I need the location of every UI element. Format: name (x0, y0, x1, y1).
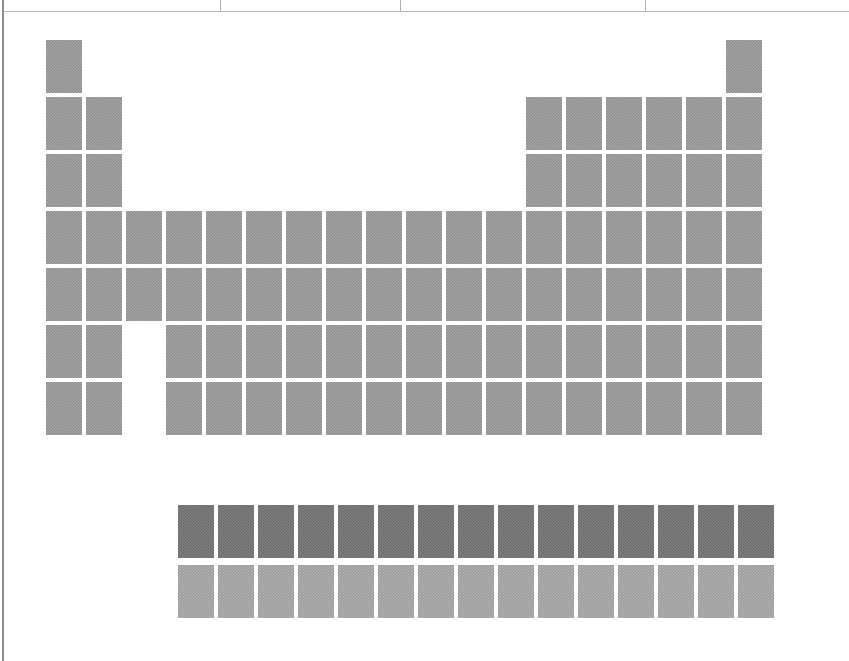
element-cell-period-4-group-7[interactable] (286, 211, 322, 264)
element-cell-period-4-group-8[interactable] (326, 211, 362, 264)
element-cell-actinides-group-10[interactable] (418, 565, 454, 618)
element-cell-period-4-group-12[interactable] (486, 211, 522, 264)
element-cell-period-6-group-7[interactable] (286, 325, 322, 378)
element-cell-period-1-group-18[interactable] (726, 40, 762, 93)
element-cell-period-2-group-17[interactable] (686, 97, 722, 150)
element-cell-period-2-group-1[interactable] (46, 97, 82, 150)
element-cell-period-7-group-8[interactable] (326, 382, 362, 435)
element-cell-actinides-group-5[interactable] (218, 565, 254, 618)
element-cell-period-5-group-7[interactable] (286, 268, 322, 321)
element-cell-period-4-group-5[interactable] (206, 211, 242, 264)
element-cell-period-6-group-9[interactable] (366, 325, 402, 378)
element-cell-period-2-group-14[interactable] (566, 97, 602, 150)
element-cell-period-3-group-17[interactable] (686, 154, 722, 207)
element-cell-period-6-group-10[interactable] (406, 325, 442, 378)
element-cell-period-5-group-12[interactable] (486, 268, 522, 321)
element-cell-period-4-group-13[interactable] (526, 211, 562, 264)
element-cell-period-6-group-16[interactable] (646, 325, 682, 378)
element-cell-period-5-group-11[interactable] (446, 268, 482, 321)
element-cell-period-6-group-12[interactable] (486, 325, 522, 378)
element-cell-period-7-group-7[interactable] (286, 382, 322, 435)
element-cell-actinides-group-7[interactable] (298, 565, 334, 618)
element-cell-period-6-group-14[interactable] (566, 325, 602, 378)
element-cell-period-2-group-15[interactable] (606, 97, 642, 150)
element-cell-lanthanides-group-10[interactable] (418, 505, 454, 558)
element-cell-period-5-group-9[interactable] (366, 268, 402, 321)
element-cell-lanthanides-group-5[interactable] (218, 505, 254, 558)
element-cell-period-3-group-14[interactable] (566, 154, 602, 207)
element-cell-lanthanides-group-16[interactable] (658, 505, 694, 558)
element-cell-period-7-group-5[interactable] (206, 382, 242, 435)
element-cell-period-4-group-4[interactable] (166, 211, 202, 264)
element-cell-lanthanides-group-8[interactable] (338, 505, 374, 558)
element-cell-period-7-group-12[interactable] (486, 382, 522, 435)
element-cell-actinides-group-15[interactable] (618, 565, 654, 618)
element-cell-period-7-group-6[interactable] (246, 382, 282, 435)
element-cell-period-5-group-4[interactable] (166, 268, 202, 321)
element-cell-actinides-group-17[interactable] (698, 565, 734, 618)
element-cell-period-7-group-1[interactable] (46, 382, 82, 435)
element-cell-lanthanides-group-13[interactable] (538, 505, 574, 558)
element-cell-period-4-group-17[interactable] (686, 211, 722, 264)
element-cell-actinides-group-16[interactable] (658, 565, 694, 618)
element-cell-actinides-group-8[interactable] (338, 565, 374, 618)
element-cell-period-2-group-2[interactable] (86, 97, 122, 150)
element-cell-lanthanides-group-15[interactable] (618, 505, 654, 558)
element-cell-period-5-group-16[interactable] (646, 268, 682, 321)
element-cell-actinides-group-14[interactable] (578, 565, 614, 618)
element-cell-period-7-group-16[interactable] (646, 382, 682, 435)
element-cell-lanthanides-group-14[interactable] (578, 505, 614, 558)
element-cell-period-6-group-17[interactable] (686, 325, 722, 378)
element-cell-actinides-group-11[interactable] (458, 565, 494, 618)
element-cell-lanthanides-group-9[interactable] (378, 505, 414, 558)
element-cell-lanthanides-group-12[interactable] (498, 505, 534, 558)
element-cell-period-4-group-18[interactable] (726, 211, 762, 264)
element-cell-period-6-group-8[interactable] (326, 325, 362, 378)
element-cell-period-6-group-4[interactable] (166, 325, 202, 378)
element-cell-period-4-group-6[interactable] (246, 211, 282, 264)
element-cell-lanthanides-group-7[interactable] (298, 505, 334, 558)
element-cell-period-6-group-13[interactable] (526, 325, 562, 378)
element-cell-period-4-group-10[interactable] (406, 211, 442, 264)
element-cell-actinides-group-12[interactable] (498, 565, 534, 618)
element-cell-period-7-group-4[interactable] (166, 382, 202, 435)
element-cell-period-4-group-3[interactable] (126, 211, 162, 264)
element-cell-actinides-group-6[interactable] (258, 565, 294, 618)
element-cell-lanthanides-group-4[interactable] (178, 505, 214, 558)
element-cell-period-4-group-16[interactable] (646, 211, 682, 264)
element-cell-actinides-group-18[interactable] (738, 565, 774, 618)
element-cell-period-2-group-18[interactable] (726, 97, 762, 150)
element-cell-period-7-group-2[interactable] (86, 382, 122, 435)
element-cell-actinides-group-9[interactable] (378, 565, 414, 618)
element-cell-period-5-group-15[interactable] (606, 268, 642, 321)
element-cell-period-3-group-16[interactable] (646, 154, 682, 207)
element-cell-period-7-group-13[interactable] (526, 382, 562, 435)
element-cell-period-7-group-14[interactable] (566, 382, 602, 435)
element-cell-period-7-group-11[interactable] (446, 382, 482, 435)
element-cell-period-4-group-15[interactable] (606, 211, 642, 264)
element-cell-period-6-group-6[interactable] (246, 325, 282, 378)
element-cell-period-3-group-18[interactable] (726, 154, 762, 207)
element-cell-actinides-group-4[interactable] (178, 565, 214, 618)
element-cell-period-5-group-14[interactable] (566, 268, 602, 321)
element-cell-period-6-group-5[interactable] (206, 325, 242, 378)
element-cell-period-5-group-3[interactable] (126, 268, 162, 321)
element-cell-period-6-group-1[interactable] (46, 325, 82, 378)
element-cell-period-6-group-11[interactable] (446, 325, 482, 378)
element-cell-lanthanides-group-6[interactable] (258, 505, 294, 558)
element-cell-lanthanides-group-11[interactable] (458, 505, 494, 558)
element-cell-period-7-group-15[interactable] (606, 382, 642, 435)
element-cell-period-4-group-1[interactable] (46, 211, 82, 264)
element-cell-period-3-group-2[interactable] (86, 154, 122, 207)
element-cell-period-4-group-2[interactable] (86, 211, 122, 264)
element-cell-period-2-group-16[interactable] (646, 97, 682, 150)
element-cell-period-7-group-17[interactable] (686, 382, 722, 435)
element-cell-period-5-group-18[interactable] (726, 268, 762, 321)
element-cell-period-5-group-8[interactable] (326, 268, 362, 321)
element-cell-period-1-group-1[interactable] (46, 40, 82, 93)
element-cell-period-5-group-6[interactable] (246, 268, 282, 321)
element-cell-lanthanides-group-17[interactable] (698, 505, 734, 558)
element-cell-period-3-group-13[interactable] (526, 154, 562, 207)
element-cell-period-6-group-2[interactable] (86, 325, 122, 378)
element-cell-period-6-group-18[interactable] (726, 325, 762, 378)
